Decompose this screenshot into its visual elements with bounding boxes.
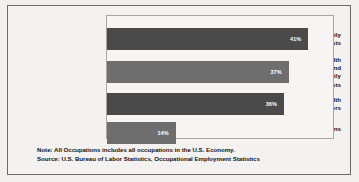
bar-row: 41% [107,28,333,50]
note-text: Note: All Occupations includes all occup… [37,145,337,154]
bar-value-label: 41% [290,36,301,42]
plot-box: 41% 37% 36% 14% [106,15,334,139]
bar-row: 14% [107,122,333,144]
bar-total-all-occupations[interactable]: 14% [107,122,176,144]
bar-mental-health-counselors[interactable]: 36% [107,93,284,115]
figure-frame: Marriage and Family Therapists Mental He… [7,5,351,175]
bar-value-label: 36% [266,101,277,107]
source-text: Source: U.S. Bureau of Labor Statistics,… [37,154,337,163]
bar-marriage-and-family-therapists[interactable]: 41% [107,28,308,50]
chart-footnotes: Note: All Occupations includes all occup… [37,145,337,163]
chart-figure: Marriage and Family Therapists Mental He… [0,0,359,182]
bar-value-label: 37% [270,69,281,75]
bar-row: 36% [107,93,333,115]
bar-value-label: 14% [157,130,168,136]
bar-row: 37% [107,61,333,83]
chart-plot-region: Marriage and Family Therapists Mental He… [12,11,346,142]
bar-mental-health-counselors-and-marriage-and-family-therapists[interactable]: 37% [107,61,289,83]
